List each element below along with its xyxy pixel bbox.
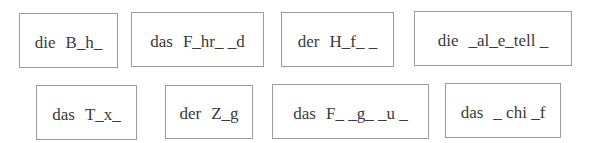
word-box-8: das _ chi _f [445,83,561,138]
word-box-6: der Z_g [165,85,253,139]
gapped-word: H_f_ _ [330,32,378,52]
word-box-3: der H_f_ _ [281,12,394,67]
article-label: die [35,33,56,53]
gapped-word: F_ _g_ _u _ [326,104,408,124]
article-label: der [298,32,320,52]
article-label: das [52,105,75,125]
word-box-7: das F_ _g_ _u _ [272,84,429,139]
article-label: das [461,103,484,123]
gapped-word: _ chi _f [493,103,545,123]
gapped-word: F_hr_ _d [183,32,245,52]
word-box-2: das F_hr_ _d [131,12,264,67]
article-label: das [293,104,316,124]
gapped-word: T_x_ [85,105,121,125]
word-box-4: die _al_e_tell _ [414,11,572,66]
gapped-word: Z_g [211,104,238,124]
article-label: das [150,32,173,52]
gapped-word: _al_e_tell _ [469,31,549,51]
gapped-word: B_h_ [65,33,102,53]
word-box-5: das T_x_ [36,85,137,140]
word-box-1: die B_h_ [19,13,118,68]
article-label: der [179,104,201,124]
article-label: die [438,31,459,51]
